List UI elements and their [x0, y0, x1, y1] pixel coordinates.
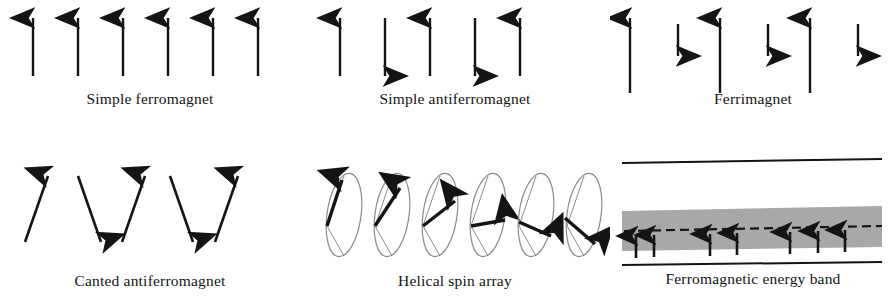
band-bottom-line	[622, 262, 882, 265]
helical-spin-cone	[417, 171, 462, 259]
helical-spin-cone	[369, 171, 414, 259]
band-top-line	[622, 159, 882, 163]
panel-label-ferrimagnet: Ferrimagnet	[610, 90, 896, 108]
panel-label-canted-antiferromagnet: Canted antiferromagnet	[0, 272, 300, 290]
arrow-group	[340, 18, 520, 76]
panel-ferromagnetic-energy-band: Ferromagnetic energy band	[610, 152, 896, 303]
arrow-group	[25, 176, 238, 242]
panel-label-simple-ferromagnet: Simple ferromagnet	[0, 90, 300, 108]
arrow-group	[630, 18, 858, 93]
panel-canted-antiferromagnet: Canted antiferromagnet	[0, 160, 300, 303]
panel-label-helical-spin-array: Helical spin array	[300, 272, 610, 290]
panel-simple-antiferromagnet: Simple antiferromagnet	[300, 4, 610, 124]
helical-spin-cone	[321, 171, 366, 259]
arrow-group	[33, 18, 258, 76]
helical-spin-cone	[465, 171, 510, 259]
panel-simple-ferromagnet: Simple ferromagnet	[0, 4, 300, 124]
spin-structures-figure: Simple ferromagnet Simple antiferromagne…	[0, 0, 896, 303]
panel-label-ferromagnetic-energy-band: Ferromagnetic energy band	[610, 270, 896, 288]
helical-spin-cone	[513, 171, 558, 259]
panel-label-simple-antiferromagnet: Simple antiferromagnet	[300, 90, 610, 108]
helical-spin-cone	[561, 171, 606, 259]
panel-ferrimagnet: Ferrimagnet	[610, 4, 896, 124]
panel-helical-spin-array: Helical spin array	[300, 160, 610, 303]
